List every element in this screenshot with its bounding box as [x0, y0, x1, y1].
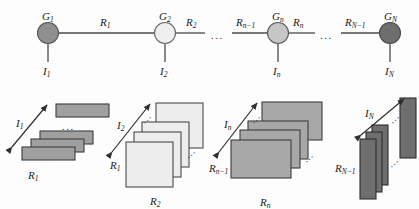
stub-label-In: In [273, 66, 280, 79]
stack-4-depth-label: IN [365, 108, 374, 121]
stack-1-depth-label: I1 [16, 118, 23, 131]
stack-1-plate-0[interactable] [56, 104, 109, 117]
edge-label-R2: R2 [186, 17, 196, 30]
stack-plates [22, 98, 416, 199]
figure-canvas: R1R2Rn−1RnRN−1I1I2InING1G2GnGN......I1R1… [0, 0, 419, 209]
stack-2-left-label: R1 [110, 160, 120, 173]
stack-4-plate-3[interactable] [360, 139, 376, 199]
edge-label-Rn-1: Rn−1 [236, 17, 255, 30]
chain-ellipsis-chain-gap-1: ... [211, 30, 224, 41]
stub-label-IN: IN [385, 66, 394, 79]
edge-label-RN-1: RN−1 [345, 17, 366, 30]
stack-4-plate-0[interactable] [400, 98, 416, 158]
graph-node-Gn[interactable] [268, 23, 289, 44]
chain-ellipsis-chain-gap-2: ... [320, 30, 333, 41]
stack-3-plate-3[interactable] [231, 140, 291, 178]
stack-1-left-label: R1 [28, 170, 38, 183]
stack-1-plate-3[interactable] [22, 147, 75, 160]
stack-1-gap-ellipsis: ... [62, 121, 75, 132]
node-label-GN: GN [384, 11, 397, 24]
edge-label-Rn: Rn [293, 17, 303, 30]
stack-3-left-label: Rn−1 [209, 163, 228, 176]
node-label-Gn: Gn [272, 11, 284, 24]
edge-label-R1: R1 [100, 17, 110, 30]
stack-4-left-label: RN−1 [335, 163, 356, 176]
diagram-svg [0, 0, 419, 209]
stack-2-plate-3[interactable] [126, 142, 173, 187]
graph-node-G1[interactable] [38, 23, 59, 44]
graph-node-G2[interactable] [155, 23, 176, 44]
stub-label-I1: I1 [43, 66, 50, 79]
node-label-G2: G2 [159, 11, 171, 24]
stack-2-bottom-label: R2 [150, 196, 160, 209]
stub-label-I2: I2 [160, 66, 167, 79]
stack-2-depth-label: I2 [117, 120, 124, 133]
stack-3-depth-label: In [224, 119, 231, 132]
stack-3-bottom-label: Rn [260, 197, 270, 209]
graph-node-GN[interactable] [380, 23, 401, 44]
graph-stubs [48, 44, 390, 63]
node-label-G1: G1 [42, 11, 54, 24]
